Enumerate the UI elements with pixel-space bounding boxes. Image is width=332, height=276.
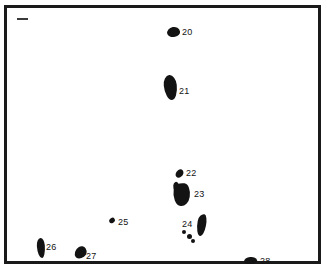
island-28-shape: [244, 256, 258, 264]
island-27-label: 27: [86, 252, 97, 261]
island-22-label: 22: [186, 169, 197, 178]
island-20-shape: [166, 26, 181, 38]
island-21-label: 21: [179, 87, 190, 96]
island-24-label: 24: [182, 220, 193, 229]
island-21-shape: [163, 74, 179, 100]
island-23-label: 23: [194, 190, 205, 199]
island-25-label: 25: [118, 218, 129, 227]
island-24-islet: [195, 213, 208, 236]
island-26-shape: [36, 238, 45, 259]
scale-tick-icon: [17, 18, 28, 20]
map-frame: 20 21 22 23 24 25 26 27 28: [4, 5, 321, 264]
island-24-dot-c: [191, 239, 195, 243]
island-26-label: 26: [46, 243, 57, 252]
island-28-label: 28: [260, 257, 271, 266]
island-22-shape: [174, 168, 185, 179]
island-24-dot-a: [182, 230, 186, 234]
figure-plate: 20 21 22 23 24 25 26 27 28: [0, 0, 332, 276]
island-20-label: 20: [182, 28, 193, 37]
island-25-shape: [108, 217, 116, 224]
